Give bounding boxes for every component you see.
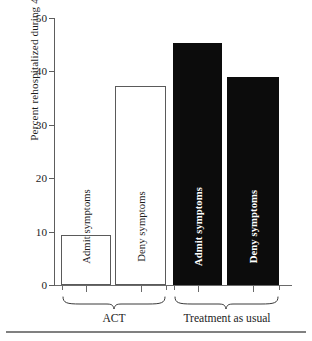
bar-label: Admit symptoms: [81, 189, 92, 264]
y-tick-label: 20: [21, 173, 47, 183]
x-group-tick-mark: [174, 286, 175, 290]
y-tick-label: 30: [21, 120, 47, 130]
group-brace-act: [62, 296, 166, 310]
y-tick-mark: [49, 178, 55, 179]
bar-3: Admit symptoms: [173, 43, 222, 285]
y-tick-label: 40: [21, 66, 47, 76]
x-group-tick-mark: [62, 286, 63, 290]
y-tick-label: 10: [21, 227, 47, 237]
bar-label: Admit symptoms: [192, 187, 203, 266]
y-tick-mark: [49, 232, 55, 233]
bar-4: Deny symptoms: [227, 77, 279, 285]
bar-label: Deny symptoms: [248, 190, 259, 263]
y-tick-label: 50: [21, 13, 47, 23]
x-axis-line: [54, 285, 292, 286]
bottom-divider: [6, 331, 306, 333]
bar-chart-figure: Percent rehospitalized during 4-month fo…: [0, 0, 312, 341]
y-tick-mark: [49, 285, 55, 286]
y-tick-mark: [49, 125, 55, 126]
y-tick-label: 0: [21, 280, 47, 290]
group-brace-treatment-as-usual: [174, 296, 279, 310]
group-label-treatment-as-usual: Treatment as usual: [170, 312, 284, 325]
y-tick-mark: [49, 71, 55, 72]
x-group-tick-mark: [166, 286, 167, 290]
group-label-act: ACT: [62, 312, 166, 325]
x-tick-mark: [86, 286, 87, 292]
bar-1: Admit symptoms: [61, 235, 111, 285]
y-tick-mark: [49, 18, 55, 19]
x-tick-mark: [253, 286, 254, 292]
y-axis-line: [54, 18, 55, 285]
x-tick-mark: [141, 286, 142, 292]
bar-2: Deny symptoms: [115, 86, 166, 285]
x-group-tick-mark: [279, 286, 280, 290]
bar-label: Deny symptoms: [135, 191, 146, 261]
y-axis-title: Percent rehospitalized during 4-month fo…: [25, 0, 43, 163]
x-tick-mark: [198, 286, 199, 292]
